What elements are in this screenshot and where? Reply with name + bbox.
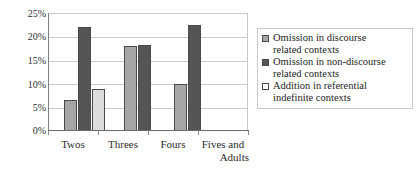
y-tick-label: 25% — [4, 9, 46, 19]
x-tick-label-fives-and-adults: Fives and Adults — [193, 138, 253, 164]
legend-label: Addition in referentialindefinite contex… — [273, 80, 367, 103]
legend-swatch-icon — [262, 83, 269, 90]
bar-group-threes — [112, 14, 162, 131]
x-tick-mark — [148, 131, 149, 135]
x-tick-label-line2: Adults — [193, 151, 253, 164]
x-tick-label-line1: Fives and — [202, 138, 244, 150]
bar-fours-series1 — [188, 25, 201, 131]
x-tick-mark — [248, 131, 249, 135]
bar-group-fives-and-adults — [212, 14, 262, 131]
y-tick-label: 15% — [4, 56, 46, 66]
bar-twos-series1 — [78, 27, 91, 131]
legend-swatch-icon — [262, 59, 269, 66]
legend-item-omission-discourse: Omission in discourserelated contexts — [262, 32, 408, 55]
y-tick-label: 0% — [4, 126, 46, 136]
x-tick-mark — [198, 131, 199, 135]
y-tick-label: 20% — [4, 32, 46, 42]
legend-swatch-icon — [262, 35, 269, 42]
bar-fours-series0 — [174, 84, 187, 131]
legend-label: Omission in discourserelated contexts — [273, 32, 366, 55]
x-tick-mark — [48, 131, 49, 135]
bar-twos-series0 — [64, 100, 77, 131]
bar-threes-series1 — [138, 45, 151, 131]
x-tick-mark — [98, 131, 99, 135]
legend-item-addition-referential: Addition in referentialindefinite contex… — [262, 80, 408, 103]
bar-threes-series0 — [124, 46, 137, 131]
x-tick-label-line1: Twos — [61, 138, 85, 150]
plot-area — [48, 13, 248, 131]
y-tick-label: 10% — [4, 80, 46, 90]
x-tick-label-line1: Threes — [108, 138, 138, 150]
legend-item-omission-non-discourse: Omission in non-discourserelated context… — [262, 56, 408, 79]
bar-group-twos — [59, 14, 109, 131]
bar-group-fours — [162, 14, 212, 131]
legend: Omission in discourserelated contexts Om… — [257, 28, 413, 109]
bar-chart: 25% 20% 15% 10% 5% 0% — [0, 0, 418, 172]
y-tick-label: 5% — [4, 103, 46, 113]
bar-twos-series2 — [92, 89, 105, 131]
x-tick-label-line1: Fours — [160, 138, 185, 150]
legend-label: Omission in non-discourserelated context… — [273, 56, 386, 79]
